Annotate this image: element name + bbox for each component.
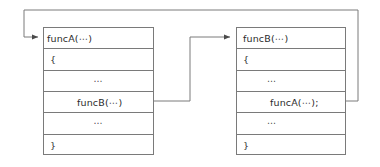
funcA-open-brace: {	[50, 54, 56, 65]
funcA-header-row: funcA(⋯)	[44, 28, 153, 49]
mutual-recursion-diagram: funcA(⋯) { ⋯ funcB(⋯) ⋯ } funcB(⋯) { ⋯ f…	[0, 0, 380, 167]
funcB-header-row: funcB(⋯)	[237, 28, 345, 49]
funcB-call-funcA-row: funcA(⋯);	[237, 92, 345, 113]
funcA-ellipsis-row-bottom: ⋯	[44, 113, 153, 134]
function-box-funcB: funcB(⋯) { ⋯ funcA(⋯); ⋯ }	[236, 27, 346, 155]
funcB-open-brace: {	[243, 54, 249, 65]
funcB-ellipsis-row-top: ⋯	[237, 71, 345, 92]
ellipsis-icon: ⋯	[267, 118, 277, 128]
funcB-call-funcA: funcA(⋯);	[270, 97, 319, 108]
funcB-open-brace-row: {	[237, 49, 345, 70]
ellipsis-icon: ⋯	[94, 118, 104, 128]
ellipsis-icon: ⋯	[267, 76, 277, 86]
funcA-signature: funcA(⋯)	[47, 33, 92, 44]
funcA-open-brace-row: {	[44, 49, 153, 70]
connector-funcA-calls-funcB	[154, 37, 230, 101]
funcA-ellipsis-row-top: ⋯	[44, 71, 153, 92]
funcB-close-brace: }	[243, 140, 249, 151]
funcA-call-funcB: funcB(⋯)	[77, 97, 122, 108]
funcB-ellipsis-row-bottom: ⋯	[237, 113, 345, 134]
funcB-close-brace-row: }	[237, 135, 345, 156]
funcA-call-funcB-row: funcB(⋯)	[44, 92, 153, 113]
ellipsis-icon: ⋯	[94, 76, 104, 86]
funcA-close-brace-row: }	[44, 135, 153, 156]
funcB-signature: funcB(⋯)	[243, 33, 288, 44]
function-box-funcA: funcA(⋯) { ⋯ funcB(⋯) ⋯ }	[43, 27, 154, 155]
funcA-close-brace: }	[50, 140, 56, 151]
